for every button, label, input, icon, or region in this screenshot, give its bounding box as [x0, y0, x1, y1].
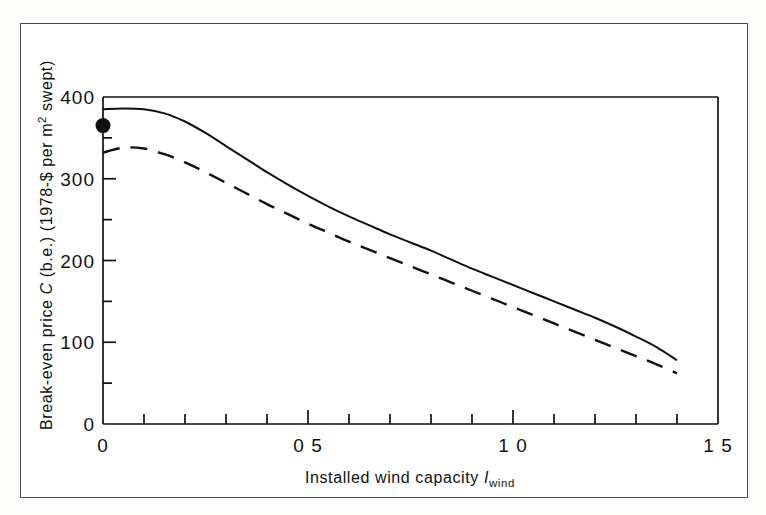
x-axis-tick-labels: 00 51 01 5 — [97, 435, 733, 456]
x-tick-label: 1 0 — [498, 435, 527, 456]
data-series-layer — [103, 108, 677, 373]
y-axis-tick-labels: 4003002001000 — [60, 87, 95, 435]
x-tick-label: 1 5 — [703, 435, 732, 456]
y-axis-title: Break-even price C (b.e.) (1978-$ per m2… — [36, 60, 55, 430]
data-marker-layer — [96, 118, 111, 133]
y-axis-title-part1: Break-even price — [38, 294, 55, 430]
x-tick-label: 0 — [97, 435, 109, 456]
x-axis-ticks — [144, 410, 677, 424]
y-axis-title-part3: swept) — [38, 60, 55, 116]
y-tick-label: 300 — [60, 169, 95, 190]
x-axis-title-subscript: wind — [488, 477, 515, 489]
x-tick-label: 0 5 — [293, 435, 322, 456]
y-tick-label: 200 — [60, 251, 95, 272]
y-tick-label: 100 — [60, 332, 95, 353]
x-axis-title: Installed wind capacity Iwind — [305, 469, 515, 489]
y-axis-title-exponent: 2 — [36, 116, 48, 123]
y-tick-label: 400 — [60, 87, 95, 108]
series-dashed-curve — [103, 147, 677, 373]
svg-text:Break-even price C (b.e.) (197: Break-even price C (b.e.) (1978-$ per m2… — [36, 60, 55, 430]
x-axis-title-part1: Installed wind capacity — [305, 469, 484, 486]
marker-break-even-point — [96, 118, 111, 133]
svg-text:Installed wind capacity Iwi: Installed wind capacity Iwind — [305, 469, 515, 489]
y-axis-title-symbol: C — [38, 282, 55, 294]
y-tick-label: 0 — [83, 414, 95, 435]
chart-plot: 4003002001000 00 51 01 5 Break-even pric… — [0, 0, 766, 515]
y-axis-title-part2: (b.e.) (1978-$ per m — [38, 123, 55, 282]
series-solid-curve — [103, 108, 677, 360]
axes-frame — [103, 97, 718, 424]
y-axis-ticks — [103, 138, 116, 383]
figure-container: 4003002001000 00 51 01 5 Break-even pric… — [0, 0, 766, 515]
